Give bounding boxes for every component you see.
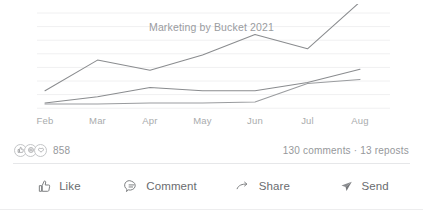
linkedin-post-card: ••• •••••• •••• ••••• ••• Marketing by B…	[0, 0, 423, 214]
send-paper-plane-icon	[339, 179, 354, 194]
divider	[13, 163, 410, 164]
engagement-summary-row: 858 130 comments · 13 reposts	[0, 138, 423, 162]
send-button[interactable]: Send	[313, 171, 415, 201]
reaction-count[interactable]: 858	[53, 145, 70, 156]
share-label: Share	[259, 180, 290, 192]
love-reaction-icon[interactable]	[34, 144, 47, 157]
x-tick-label-may: May	[183, 115, 223, 126]
card-bottom-edge	[0, 209, 423, 210]
series-line-1	[45, 4, 360, 91]
send-label: Send	[361, 180, 388, 192]
chart-gridlines	[37, 13, 390, 108]
x-tick-label-aug: Aug	[340, 115, 380, 126]
reactions-group[interactable]: 858	[14, 144, 70, 157]
x-tick-label-feb: Feb	[25, 115, 65, 126]
comment-bubble-icon	[124, 179, 139, 194]
reaction-badges[interactable]	[14, 144, 44, 157]
x-tick-label-jun: Jun	[235, 115, 275, 126]
comment-button[interactable]: Comment	[110, 171, 212, 201]
chart-image[interactable]: Marketing by Bucket 2021 FebMarAprMayJun…	[0, 4, 423, 131]
x-tick-label-mar: Mar	[78, 115, 118, 126]
like-button[interactable]: Like	[8, 171, 110, 201]
comment-label: Comment	[146, 180, 197, 192]
like-label: Like	[59, 180, 81, 192]
post-action-bar: Like Comment Share	[0, 166, 423, 206]
share-arrow-icon	[235, 179, 252, 194]
comments-reposts-count[interactable]: 130 comments · 13 reposts	[283, 145, 409, 156]
x-tick-label-jul: Jul	[288, 115, 328, 126]
series-line-2	[45, 69, 360, 103]
line-chart-svg	[0, 4, 423, 131]
series-line-3	[45, 79, 360, 104]
thumbs-up-icon	[37, 179, 52, 194]
share-button[interactable]: Share	[212, 171, 314, 201]
x-tick-label-apr: Apr	[130, 115, 170, 126]
